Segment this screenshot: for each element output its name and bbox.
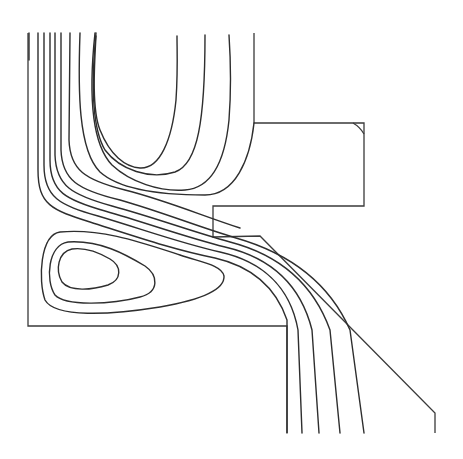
upper-block-wall (213, 33, 435, 433)
lower-vortex (41, 231, 224, 313)
upper-loop-5 (94, 36, 177, 168)
block-corner-notch (353, 123, 364, 134)
upper-loop-4 (93, 33, 205, 175)
streamline-diagram (0, 0, 463, 459)
upper-loop-2 (79, 33, 254, 195)
streamline-1 (38, 33, 287, 433)
lower-loop-middle (49, 242, 154, 303)
lower-loop-inner (58, 249, 118, 290)
upper-loop-3 (92, 33, 231, 190)
streamline-2 (44, 33, 302, 433)
left-bottom-wall (28, 33, 287, 433)
streamline-3 (50, 33, 319, 433)
upper-recirculation (69, 33, 254, 228)
boundary-walls (28, 33, 435, 433)
through-streamlines (38, 33, 364, 433)
